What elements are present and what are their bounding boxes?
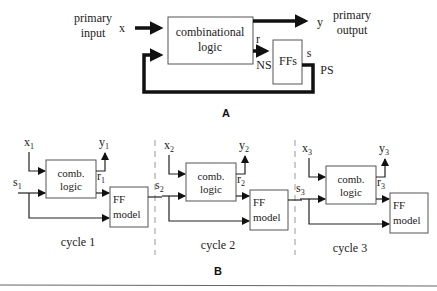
figure-b: x1 y1 comb. logic s1 r1 FF model cycle 1…	[13, 135, 428, 277]
comb-logic-label-line2: logic	[340, 186, 362, 198]
ff-model-label-line1: FF	[113, 193, 125, 205]
state-signal: s1	[13, 175, 22, 191]
primary-input-label-line2: input	[81, 26, 106, 40]
comb-logic-label-line2: logic	[200, 183, 222, 195]
cycle-caption: cycle 1	[61, 235, 95, 249]
ff-model-label-line2: model	[393, 214, 421, 226]
input-signal: x3	[302, 141, 312, 157]
comb-logic-block	[326, 166, 376, 204]
comb-logic-label-line1: comb.	[57, 167, 84, 179]
cycle-3: x3 y3 comb. logic s3 r3 FF model cycle 3	[296, 141, 428, 255]
comb-logic-label-line1: comb.	[197, 170, 224, 182]
ff-model-label-line1: FF	[253, 196, 265, 208]
figure-a-label: A	[222, 107, 230, 119]
output-signal-y: y	[317, 15, 323, 29]
input-signal-x: x	[119, 21, 125, 35]
figure-b-label: B	[214, 265, 222, 277]
comb-logic-block	[186, 163, 236, 201]
comb-logic-label-line1: combinational	[176, 25, 245, 39]
next-state-signal-r: r	[256, 32, 260, 46]
comb-logic-block	[46, 160, 96, 198]
input-arrow	[29, 152, 45, 171]
input-signal: x1	[24, 135, 34, 151]
present-state-signal-s: s	[307, 46, 312, 60]
comb-logic-label-line1: comb.	[337, 173, 364, 185]
present-state-label: PS	[320, 63, 333, 77]
ff-model-label-line1: FF	[393, 199, 405, 211]
comb-logic-label-line2: logic	[198, 40, 222, 54]
flip-flops-label: FFs	[279, 54, 297, 68]
ff-model-label-line2: model	[253, 211, 281, 223]
cycle-2: x2 y2 comb. logic s2 r2 FF model cycle 2	[155, 138, 302, 252]
cycle-caption: cycle 3	[333, 241, 367, 255]
ff-model-label-line2: model	[113, 208, 141, 220]
primary-output-label-line2: output	[337, 23, 368, 37]
sequential-circuit-diagram: primary input x combinational logic y pr…	[0, 0, 437, 291]
output-signal: y2	[239, 138, 249, 154]
input-arrow	[169, 155, 185, 174]
primary-output-label-line1: primary	[333, 8, 371, 22]
state-signal: s2	[155, 178, 164, 194]
input-arrow	[309, 158, 325, 177]
comb-logic-label-line2: logic	[60, 180, 82, 192]
next-state-label: NS	[256, 58, 271, 72]
figure-a: primary input x combinational logic y pr…	[74, 8, 371, 119]
bottom-rule	[0, 285, 437, 286]
output-signal: y1	[99, 135, 109, 151]
cycle-1: x1 y1 comb. logic s1 r1 FF model cycle 1	[13, 135, 162, 249]
primary-input-label-line1: primary	[74, 11, 112, 25]
cycle-caption: cycle 2	[201, 238, 235, 252]
output-signal: y3	[379, 141, 389, 157]
input-signal: x2	[164, 138, 174, 154]
state-signal: s3	[296, 181, 305, 197]
